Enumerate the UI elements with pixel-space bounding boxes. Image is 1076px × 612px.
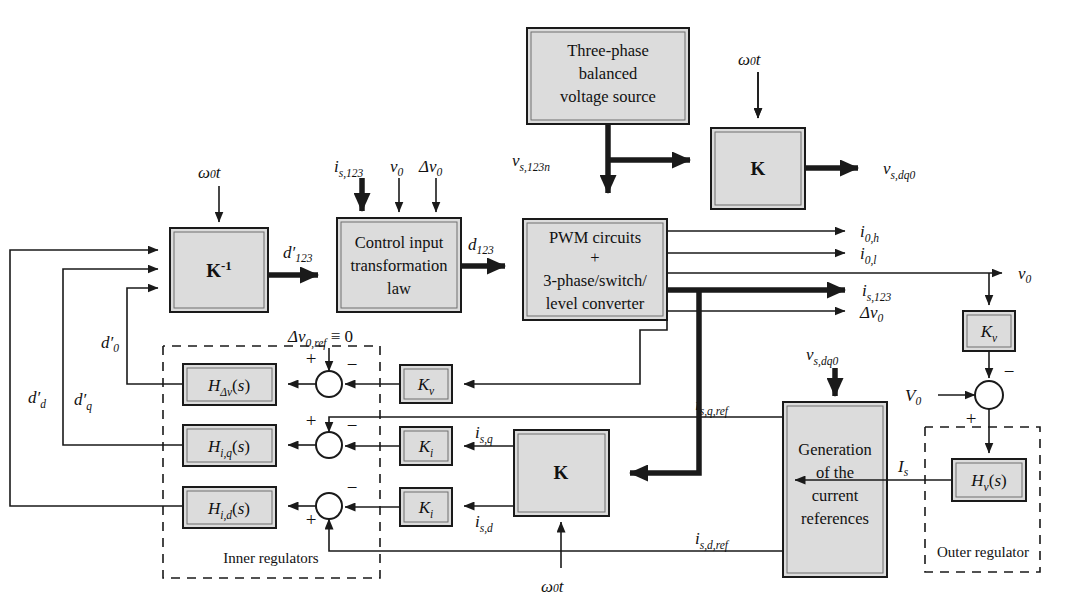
generation-line2: of the [816,463,854,482]
voltage-source-line2: balanced [579,64,638,83]
sum-delta-v-minus: − [347,354,358,375]
label-dv0-law: Δv0 [418,157,443,178]
outer-regulator-label: Outer regulator [937,544,1029,560]
label-dp123: d′123 [283,243,313,264]
sum-i-q-plus: + [306,410,317,431]
sum-junction-delta-v: + − [306,348,358,397]
block-generation-current-references: Generation of the current references [783,402,887,577]
block-pwm-converter: PWM circuits + 3-phase/switch/ level con… [523,219,667,320]
block-kv-left: Kv [400,365,452,403]
label-vs123n: vs,123n [512,151,550,174]
block-control-input-transformation-law: Control input transformation law [337,218,461,312]
pwm-line2: + [590,248,599,267]
block-h-v: Hv(s) [952,459,1026,501]
block-h-i-d: Hi,d(s) [183,487,276,528]
pwm-line1: PWM circuits [549,228,641,247]
k-middle-label: K [554,462,569,483]
block-h-i-q: Hi,q(s) [183,425,276,466]
label-isq: is,q [475,423,493,446]
block-h-delta-v: HΔv(s) [183,364,276,405]
sum-i-d-minus: − [347,477,358,498]
label-dv0ref: Δv0,ref ≡ 0 [287,327,353,350]
label-vsdq0-top: vs,dq0 [883,159,915,182]
inner-regulators-label: Inner regulators [223,550,319,566]
sum-i-q-minus: − [347,415,358,436]
h-delta-v-rect [183,364,276,405]
block-ki-q: Ki [400,427,452,465]
control-law-line3: law [387,279,411,298]
control-law-line2: transformation [350,256,447,275]
label-is123-out: is,123 [862,281,892,304]
wire-dpq-to-k-inverse [63,269,183,445]
h-i-q-rect [183,425,276,466]
label-is123-law: is,123 [334,157,364,180]
h-i-d-rect [183,487,276,528]
label-omega-t-k-top: ω0t [738,50,762,69]
block-k-middle: K [514,430,609,516]
sum-circle-i-q [316,432,342,458]
label-i0l: i0,l [860,244,877,267]
label-Is: Is [897,457,909,478]
voltage-source-line3: voltage source [560,87,656,106]
label-dv0-out: Δv0 [859,303,884,324]
label-isdref: is,d,ref [695,529,730,552]
wire-dv0-feedback [464,311,667,384]
label-dpd: d′d [28,388,46,410]
k-top-label: K [751,158,766,179]
sum-voltage-plus: + [966,408,977,429]
label-V0: V0 [905,386,921,407]
sum-circle-i-d [316,493,342,519]
sum-junction-i-d: + − [306,477,358,530]
block-voltage-source: Three-phase balanced voltage source [527,28,689,124]
block-k-top: K [711,128,805,209]
sum-voltage-minus: − [1004,361,1015,382]
generation-line3: current [812,486,859,505]
label-omega-t-k-middle: ω0t [541,577,565,596]
label-v0-out: v0 [1018,264,1032,285]
label-isd: is,d [475,512,493,535]
block-kv-right: Kv [963,311,1015,351]
label-omega-t-k-inverse: ω0t [198,163,222,182]
sum-circle-voltage [975,381,1003,409]
generation-line4: references [801,509,869,528]
control-law-line1: Control input [355,233,444,252]
label-dp0: d′0 [101,333,119,354]
label-vsdq0-generation: vs,dq0 [806,345,838,368]
label-i0h: i0,h [860,222,879,245]
sum-delta-v-plus: + [306,348,317,369]
label-dpq: d′q [74,390,92,413]
sum-i-d-plus: + [306,509,317,530]
pwm-line3: 3-phase/switch/ [543,271,647,290]
block-diagram: Three-phase balanced voltage source K K-… [0,0,1076,612]
voltage-source-line1: Three-phase [567,41,649,60]
generation-line1: Generation [798,440,871,459]
label-d123: d123 [468,235,494,256]
sum-circle-delta-v [316,371,342,397]
block-ki-d: Ki [400,488,452,526]
label-v0-law: v0 [390,157,404,178]
pwm-line4: level converter [546,294,645,313]
h-v-label: Hv(s) [970,471,1006,493]
block-k-inverse: K-1 [170,228,268,312]
